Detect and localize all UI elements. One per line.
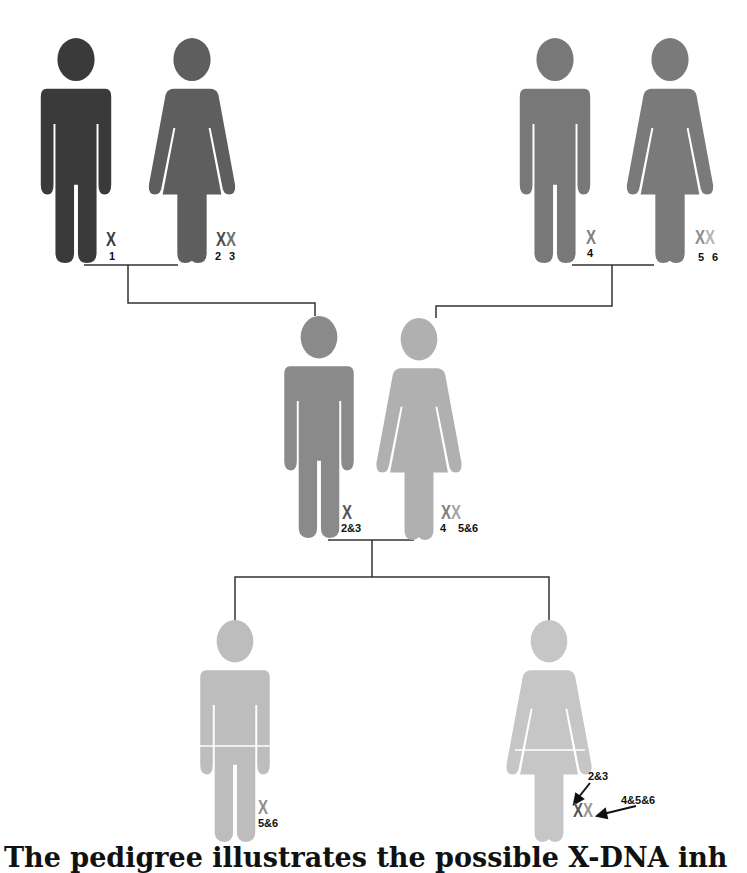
maternal-grandfather-figure [520,38,590,263]
son-x-label: 5&6 [258,818,278,829]
x-label-5: 5 [698,252,704,263]
x-label-4: 4 [587,248,593,259]
mother-x-chromosome-b: X [451,502,460,522]
father-x-chromosome: X [342,502,351,522]
arrow-456-head [597,809,607,818]
x-chromosome-4: X [586,227,595,247]
mother-x-label-56: 5&6 [458,523,478,534]
daughter-annotation-456: 4&5&6 [621,795,655,806]
x-label-3: 3 [229,251,235,262]
x-chromosome-2: X [216,229,225,249]
descent-line-mother [436,265,612,318]
x-label-6: 6 [712,252,718,263]
son-x-chromosome: X [258,797,267,817]
x-chromosome-3: X [226,229,235,249]
sibling-line [235,577,549,622]
x-chromosome-1: X [106,229,115,249]
daughter-x-chromosome-b: X [583,800,592,820]
figure-caption: The pedigree illustrates the possible X-… [0,842,747,873]
pedigree-lines [84,265,654,622]
daughter-annotation-2and3: 2&3 [588,771,608,782]
x-chromosome-5: X [695,227,704,247]
mother-x-label-4: 4 [440,523,446,534]
paternal-grandfather-figure [41,38,111,263]
x-label-1: 1 [109,251,115,262]
mother-x-chromosome-a: X [441,502,450,522]
x-chromosome-6: X [705,227,714,247]
x-label-2: 2 [215,251,221,262]
daughter-x-chromosome-a: X [573,800,582,820]
descent-line-father [128,265,315,316]
arrow-456 [603,806,636,814]
father-x-label: 2&3 [341,523,361,534]
